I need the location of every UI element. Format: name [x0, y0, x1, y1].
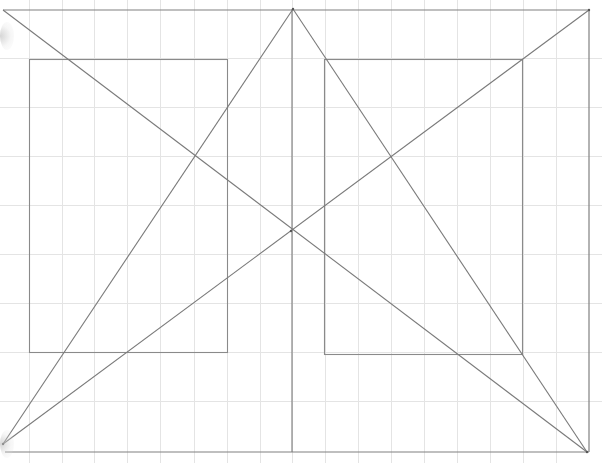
apex-to-bottomleft: [3, 9, 293, 444]
center-intersection-point: [290, 230, 292, 232]
apex-point: [292, 8, 294, 10]
construction-lines: [2, 8, 590, 453]
construction-diagram: [0, 0, 602, 463]
bottom-right-vertex-point: [586, 451, 588, 453]
diagonal-bottomleft-to-topright: [3, 10, 589, 444]
top-right-vertex-point: [588, 9, 590, 11]
apex-to-bottomright: [293, 9, 587, 452]
bottom-left-vertex-point: [2, 443, 4, 445]
diagram-canvas: [0, 0, 602, 463]
inner-rectangles: [30, 60, 523, 355]
grid: [0, 0, 602, 463]
